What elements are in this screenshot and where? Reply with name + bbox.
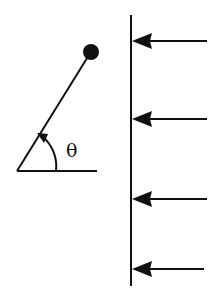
diagram-svg: θ [0, 0, 219, 302]
pendulum: θ [17, 44, 99, 171]
pendulum-rod [17, 55, 89, 171]
arrowhead-left-icon [132, 191, 152, 207]
force-arrow-3 [132, 191, 207, 207]
arrowhead-left-icon [132, 111, 152, 127]
pendulum-bob [83, 44, 99, 60]
force-arrow-2 [132, 111, 207, 127]
diagram-canvas: θ [0, 0, 219, 302]
angle-arc [43, 137, 56, 171]
theta-label: θ [66, 139, 77, 161]
force-arrow-1 [132, 33, 207, 49]
force-arrow-4 [132, 261, 204, 277]
force-arrows [132, 33, 207, 277]
arrowhead-left-icon [132, 33, 152, 49]
arrowhead-left-icon [132, 261, 152, 277]
